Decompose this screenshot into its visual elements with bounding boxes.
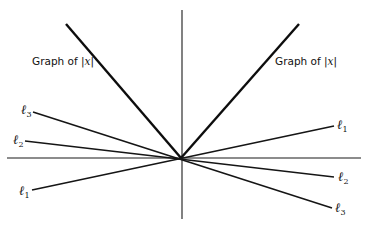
absolute-value-diagram: Graph of |x| Graph of |x| ℓ3 ℓ2 ℓ1 ℓ1 ℓ2… (0, 0, 368, 231)
label-l3-right: ℓ3 (335, 200, 346, 217)
abs-x-left-branch (66, 24, 181, 158)
abs-label-left: Graph of |x| (32, 55, 94, 68)
label-l1-left: ℓ1 (19, 183, 30, 200)
label-l2-right: ℓ2 (338, 169, 349, 186)
label-l2-left: ℓ2 (13, 132, 24, 149)
abs-label-right: Graph of |x| (275, 55, 337, 68)
label-l3-left: ℓ3 (21, 102, 32, 119)
label-l1-right: ℓ1 (337, 117, 348, 134)
